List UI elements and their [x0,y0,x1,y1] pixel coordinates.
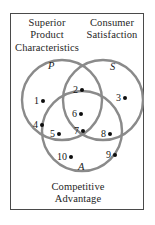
venn-point-8: 8 [101,129,112,139]
venn-point-dot [57,132,61,136]
venn-point-label: 3 [116,92,121,103]
caption-line: Competitive [12,181,144,193]
venn-point-dot [79,112,83,116]
venn-point-label: 9 [106,149,111,160]
venn-point-dot [113,153,117,157]
venn-point-label: 1 [34,95,39,106]
venn-point-label: 5 [50,128,55,139]
venn-point-5: 5 [50,129,61,139]
set-label-a: A [78,161,84,172]
venn-point-9: 9 [106,150,117,160]
venn-point-label: 10 [57,151,67,162]
venn-point-label: 2 [73,84,78,95]
venn-point-dot [41,99,45,103]
caption-competitive-advantage: Competitive Advantage [12,181,144,206]
venn-diagram-figure: Superior Product Characteristics Consume… [0,0,155,225]
venn-point-dot [80,88,84,92]
venn-point-2: 2 [73,85,84,95]
venn-point-7: 7 [74,126,85,136]
set-label-p: P [48,60,54,71]
venn-point-dot [108,132,112,136]
venn-point-label: 6 [72,108,77,119]
venn-point-dot [69,155,73,159]
venn-point-dot [123,96,127,100]
venn-point-dot [40,123,44,127]
venn-point-4: 4 [33,120,44,130]
venn-point-dot [81,129,85,133]
caption-line: Advantage [12,193,144,205]
venn-point-label: 8 [101,128,106,139]
venn-point-label: 4 [33,119,38,130]
venn-point-10: 10 [57,152,73,162]
venn-point-label: 7 [74,125,79,136]
venn-point-1: 1 [34,96,45,106]
venn-point-3: 3 [116,93,127,103]
set-label-s: S [110,61,115,72]
venn-point-6: 6 [72,109,83,119]
